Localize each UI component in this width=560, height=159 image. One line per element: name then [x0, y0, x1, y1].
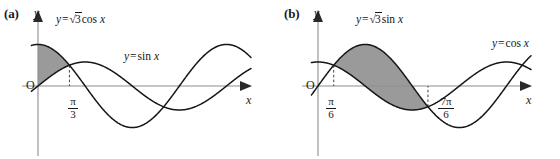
curve-label-equals: =: [497, 37, 506, 49]
tick-label-pi-over-3: π 3: [62, 96, 84, 120]
radicand: 3: [375, 12, 382, 25]
curve-label-function: cos: [82, 13, 97, 25]
fraction-numerator: 7π: [438, 96, 453, 109]
panel-a-plot: [0, 0, 280, 159]
trig-figure: (a) y x O y=√3cos x y=sin x π 3 (b) y x …: [0, 0, 560, 159]
panel-b-origin-label: O: [306, 78, 315, 93]
curve-label-function: sin: [382, 13, 395, 25]
radicand: 3: [75, 12, 82, 25]
tick-label-pi-over-6: π 6: [320, 96, 342, 120]
x-axis-arrow-icon: [240, 81, 252, 91]
panel-a-x-axis-label: x: [246, 93, 251, 108]
fraction-numerator: π: [68, 96, 78, 109]
fraction-denominator: 6: [326, 109, 336, 121]
curve-label-equals: =: [61, 13, 70, 25]
curve-label-variable: x: [100, 13, 105, 25]
fraction: 7π 6: [438, 96, 453, 120]
panel-b: (b) y x O y=√3sin x y=cos x π 6 7π 6: [280, 0, 560, 159]
curve-label-sqrt3-cos-x: y=√3cos x: [56, 13, 105, 25]
fraction-denominator: 3: [68, 109, 78, 121]
x-axis-arrow-icon: [520, 81, 532, 91]
curve-label-equals: =: [361, 13, 370, 25]
curve-label-sin-x: y=sin x: [124, 50, 159, 62]
panel-b-plot: [280, 0, 560, 159]
curve-label-function: sin: [138, 50, 151, 62]
curve-label-equals: =: [129, 50, 138, 62]
radical-sign-group: √3: [370, 13, 382, 25]
panel-a: (a) y x O y=√3cos x y=sin x π 3: [0, 0, 280, 159]
radical-sign-group: √3: [70, 13, 82, 25]
panel-b-x-axis-label: x: [526, 93, 531, 108]
curve-label-sqrt3-sin-x: y=√3sin x: [356, 13, 403, 25]
curve-label-function: cos: [506, 37, 521, 49]
fraction: π 6: [326, 96, 336, 120]
panel-b-y-axis-label: y: [314, 6, 319, 21]
fraction-numerator: π: [326, 96, 336, 109]
curve-label-variable: x: [154, 50, 159, 62]
fraction: π 3: [68, 96, 78, 120]
panel-a-origin-label: O: [26, 78, 35, 93]
shaded-region: [334, 44, 428, 110]
panel-a-y-axis-label: y: [34, 6, 39, 21]
curve-label-variable: x: [524, 37, 529, 49]
curve-label-variable: x: [398, 13, 403, 25]
tick-label-seven-pi-over-6: 7π 6: [432, 96, 460, 120]
curve-label-cos-x: y=cos x: [492, 37, 529, 49]
fraction-denominator: 6: [438, 109, 453, 121]
